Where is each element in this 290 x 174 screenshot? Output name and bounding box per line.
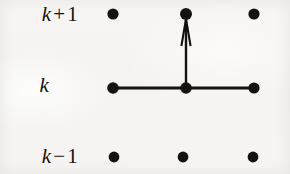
lattice-hopping-figure: k+1 k k−1 — [0, 0, 290, 174]
lattice-point-top-center — [180, 8, 192, 20]
lattice-point-bottom-left — [109, 152, 120, 163]
bond-group — [113, 19, 254, 88]
lattice-point-middle-right — [248, 82, 259, 93]
lattice-graphics — [0, 0, 290, 174]
lattice-point-bottom-center — [178, 152, 189, 163]
lattice-point-bottom-right — [248, 152, 259, 163]
lattice-point-middle-left — [107, 82, 119, 94]
lattice-point-top-left — [107, 8, 118, 19]
lattice-point-middle-center — [180, 82, 192, 94]
lattice-point-top-right — [248, 8, 259, 19]
